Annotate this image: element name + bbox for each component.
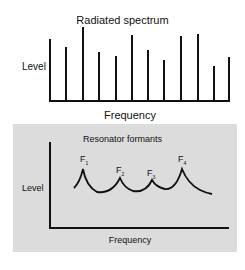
- formant-f4-label: F4: [178, 154, 186, 166]
- formant-f1-label: F1: [80, 154, 88, 166]
- bottom-frequency-label: Frequency: [0, 235, 245, 245]
- formant-f3-label: F3: [147, 168, 155, 180]
- resonator-formants-chart: [0, 0, 245, 270]
- formant-f2-label: F2: [116, 165, 124, 177]
